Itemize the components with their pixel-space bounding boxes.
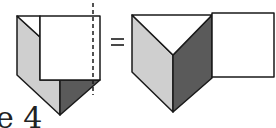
- figure-caption: e 4: [0, 103, 42, 128]
- left-dark-face: [60, 80, 100, 115]
- left-figure: [17, 3, 100, 115]
- equals-sign: [111, 39, 124, 45]
- left-overlay-square: [40, 16, 100, 80]
- right-square: [212, 13, 274, 77]
- right-figure: [132, 13, 274, 112]
